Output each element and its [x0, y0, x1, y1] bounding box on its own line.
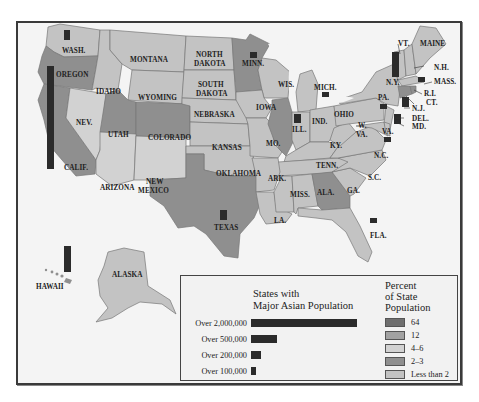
label-wva-2: VA. [356, 131, 368, 139]
label-wyoming: WYOMING [138, 94, 177, 102]
legend-panel: States with Major Asian Population Over … [180, 275, 458, 381]
label-md: MD. [412, 123, 426, 131]
label-vt: VT. [398, 40, 410, 48]
legend-swatch [385, 370, 405, 379]
bar-michigan [322, 92, 329, 97]
label-ark: ARK. [268, 175, 286, 183]
label-wis: WIS. [278, 81, 294, 89]
bar [251, 319, 357, 327]
label-va: VA. [382, 128, 394, 136]
bar-row: Over 2,000,000 [181, 318, 357, 328]
state-florida [298, 208, 372, 262]
bar-minnesota [250, 52, 257, 58]
label-kansas: KANSAS [212, 144, 242, 152]
chart-title-line-1: States with [253, 288, 353, 300]
bar [251, 351, 261, 359]
legend-label: 4–6 [411, 344, 423, 353]
label-alaska: ALASKA [112, 271, 143, 279]
label-minn: MINN. [242, 60, 264, 68]
state-alaska [96, 248, 176, 322]
label-wva-1: W. [358, 122, 367, 130]
bar-hawaii [64, 246, 71, 272]
label-texas: TEXAS [214, 224, 238, 232]
label-maine: MAINE [420, 40, 445, 48]
bar-label: Over 200,000 [181, 351, 251, 360]
bar-massachusetts [418, 77, 425, 82]
legend-label: Less than 2 [411, 370, 449, 379]
label-south-dakota-1: SOUTH [198, 81, 224, 89]
legend-item: 2–3 [385, 355, 457, 368]
label-nebraska: NEBRASKA [194, 111, 235, 119]
label-iowa: IOWA [256, 104, 277, 112]
label-north-dakota-1: NORTH [196, 51, 223, 59]
label-arizona: ARIZONA [100, 184, 135, 192]
label-south-dakota-2: DAKOTA [196, 90, 228, 98]
label-ny: N.Y. [386, 79, 400, 87]
label-utah: UTAH [108, 131, 129, 139]
label-ohio: OHIO [334, 111, 354, 119]
bar-washington [64, 30, 70, 40]
label-sc: S.C. [368, 174, 381, 182]
legend-item: 64 [385, 316, 457, 329]
label-ri: R.I. [424, 90, 436, 98]
bar-label: Over 500,000 [181, 335, 251, 344]
bar-new-york [392, 52, 399, 77]
bar-pennsylvania [380, 104, 387, 109]
bar-new-jersey [402, 97, 409, 107]
state-kansas [190, 122, 250, 146]
label-ala: ALA. [317, 189, 334, 197]
label-nev: NEV. [76, 119, 93, 127]
label-oklahoma: OKLAHOMA [216, 170, 262, 178]
label-fla: FLA. [370, 232, 387, 240]
legend-swatch [385, 331, 405, 340]
bar-california [47, 66, 54, 169]
legend-swatch [385, 344, 405, 353]
bar-texas [220, 210, 227, 220]
state-arizona [96, 132, 136, 186]
label-del: DEL. [412, 115, 429, 123]
label-calif: CALIF. [64, 164, 88, 172]
legend-title-line-1: Percent [385, 280, 457, 291]
label-ill: ILL. [292, 126, 307, 134]
legend-label: 2–3 [411, 357, 423, 366]
label-hawaii: HAWAII [36, 283, 64, 291]
bar-label: Over 100,000 [181, 367, 251, 376]
legend-item: 4–6 [385, 342, 457, 355]
state-colorado [136, 102, 190, 138]
legend-title-line-2: of State [385, 291, 457, 302]
bar-florida [370, 218, 377, 223]
legend-item: Less than 2 [385, 368, 457, 381]
label-new-mexico-2: MEXICO [138, 187, 169, 195]
bar-label: Over 2,000,000 [181, 319, 251, 328]
bar-row: Over 100,000 [181, 366, 256, 376]
label-mass: MASS. [434, 78, 456, 86]
bar-row: Over 200,000 [181, 350, 261, 360]
label-pa: PA. [378, 94, 389, 102]
label-montana: MONTANA [130, 56, 169, 64]
legend-swatch [385, 357, 405, 366]
bar-virginia [384, 137, 391, 142]
bar [251, 335, 277, 343]
chart-title-line-2: Major Asian Population [253, 300, 353, 312]
bar-row: Over 500,000 [181, 334, 277, 344]
legend-title: Percent of State Population [385, 280, 457, 313]
chart-title: States with Major Asian Population [253, 288, 353, 312]
legend-swatch [385, 318, 405, 327]
lake-superior [268, 43, 304, 59]
label-ct: CT. [426, 99, 438, 107]
label-ind: IND. [312, 118, 327, 126]
legend-title-line-3: Population [385, 302, 457, 313]
legend-label: 64 [411, 318, 419, 327]
label-idaho: IDAHO [96, 88, 121, 96]
label-new-mexico-1: NEW [146, 178, 164, 186]
bar [251, 367, 256, 375]
label-la: LA. [274, 217, 286, 225]
state-connecticut [398, 86, 412, 98]
label-mich: MICH. [314, 84, 337, 92]
label-wash: WASH. [62, 47, 86, 55]
label-mo: MO. [266, 140, 281, 148]
label-nc: N.C. [374, 152, 388, 160]
legend-label: 12 [411, 331, 419, 340]
percent-legend: Percent of State Population 64 12 4–6 2–… [385, 280, 457, 381]
state-new-mexico [134, 136, 186, 180]
